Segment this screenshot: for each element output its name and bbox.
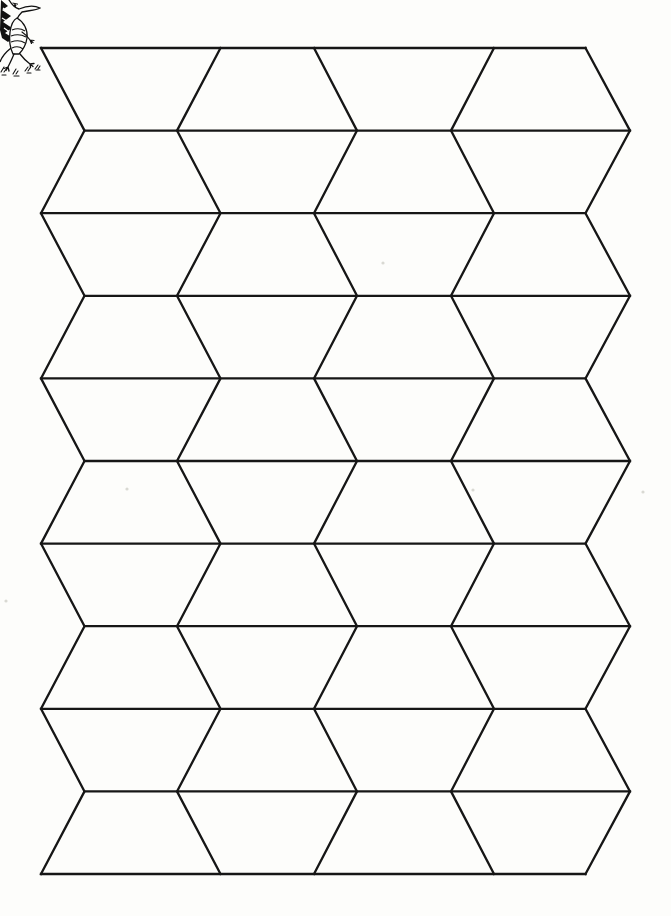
pattern-page [0,0,671,916]
paper-speck [4,599,7,602]
dragon-clipart [0,0,46,78]
dragon-eye [14,4,17,7]
pattern-zigzag-line [41,48,85,874]
dragon-brow [13,3,19,4]
grass-tufts [1,65,40,76]
paper-speck [381,261,384,264]
tumbler-tessellation [0,0,671,916]
dragon-tail [0,48,11,62]
paper-speck [125,487,128,490]
paper-speck [471,488,474,491]
paper-speck [641,490,644,493]
